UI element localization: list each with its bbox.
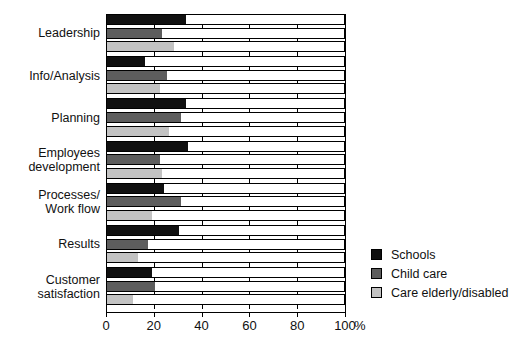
x-tick-gap-segment [249,97,250,98]
x-tick-gap-segment [202,152,203,155]
bar-group [106,183,345,224]
category-label: Leadership [0,26,100,40]
x-tick-gap-segment [154,224,155,225]
x-tick-gap-segment [249,224,250,225]
x-tick-gap-segment [154,236,155,239]
x-tick-gap-segment [249,152,250,155]
x-tick-mark [106,312,107,317]
x-tick-gap-segment [154,55,155,56]
y-axis-line [106,14,107,313]
x-tick-gap-segment [249,181,250,182]
legend-item: Care elderly/disabled [371,283,508,302]
bar-track [106,281,345,292]
x-tick-gap-segment [202,207,203,210]
category-label-line: Info/Analysis [0,69,100,83]
category-label-line: development [0,160,100,174]
x-tick-gap-segment [249,123,250,126]
bar-fill [107,155,160,164]
x-tick-gap-segment [154,39,155,42]
x-tick-gap-segment [297,81,298,84]
x-tick-gap-segment [202,81,203,84]
bar-fill [107,268,152,277]
x-tick-gap-segment [154,97,155,98]
x-tick-gap-segment [297,194,298,197]
x-tick-gap-segment [297,139,298,140]
x-tick-gap-segment [249,139,250,140]
bar-track [106,267,345,278]
category-label-line: satisfaction [0,287,100,301]
bar-track [106,56,345,67]
x-tick-gap-segment [249,109,250,112]
bar-fill [107,282,155,291]
x-tick-gap-segment [154,181,155,182]
bar-group [106,14,345,55]
bar-fill [107,57,145,66]
x-tick-mark [345,312,346,317]
x-tick-gap-segment [297,152,298,155]
legend-swatch-icon [371,287,382,298]
x-tick-gap-segment [297,236,298,239]
x-tick-gap-segment [202,109,203,112]
x-tick-gap-segment [202,165,203,168]
x-tick-gap-segment [297,25,298,28]
x-tick-gap-segment [202,266,203,267]
x-tick-gap-segment [297,39,298,42]
bar-track [106,210,345,221]
x-tick-gap-segment [297,165,298,168]
category-label: Employeesdevelopment [0,146,100,174]
plot-area [106,14,345,309]
x-tick-gap-segment [154,25,155,28]
x-tick-gap-segment [249,165,250,168]
category-label-line: Employees [0,146,100,160]
x-tick-gap-segment [249,278,250,281]
bar-fill [107,184,164,193]
x-tick-gap-segment [297,123,298,126]
category-label-line: Results [0,237,100,251]
bar-group [106,98,345,139]
bar-fill [107,71,167,80]
legend-label: Schools [391,248,435,262]
bar-track [106,126,345,137]
x-tick-gap-segment [202,308,203,309]
x-tick-gap-segment [249,55,250,56]
bar-fill [107,226,179,235]
bar-track [106,196,345,207]
bar-track [106,294,345,305]
x-tick-gap-segment [249,25,250,28]
x-tick-label: 0 [86,318,126,333]
x-tick-gap-segment [154,308,155,309]
x-tick-gap-segment [202,39,203,42]
legend-swatch-icon [371,249,382,260]
x-tick-mark [202,312,203,317]
x-tick-gap-segment [154,123,155,126]
x-tick-gap-segment [249,194,250,197]
x-tick-mark [297,312,298,317]
category-label-line: Processes/ [0,188,100,202]
bar-track [106,225,345,236]
x-tick-label: 80 [277,318,317,333]
legend-label: Child care [391,267,447,281]
x-tick-gap-segment [154,139,155,140]
x-tick-gap-segment [297,224,298,225]
bar-track [106,70,345,81]
legend-label: Care elderly/disabled [391,286,508,300]
legend-item: Child care [371,264,508,283]
bar-fill [107,142,188,151]
x-tick-gap-segment [202,224,203,225]
x-tick-gap-segment [202,236,203,239]
bar-track [106,98,345,109]
bar-fill [107,84,160,93]
x-tick-gap-segment [297,266,298,267]
horizontal-bar-chart: 020406080100% LeadershipInfo/AnalysisPla… [0,0,519,348]
bar-fill [107,99,186,108]
plot-right-edge [345,14,346,313]
bar-fill [107,240,148,249]
chart-legend: SchoolsChild careCare elderly/disabled [371,245,508,302]
x-tick-gap-segment [249,81,250,84]
category-label-line: Leadership [0,26,100,40]
x-tick-gap-segment [154,165,155,168]
x-tick-gap-segment [154,81,155,84]
x-tick-gap-segment [154,250,155,253]
bar-track [106,141,345,152]
x-tick-gap-segment [154,207,155,210]
